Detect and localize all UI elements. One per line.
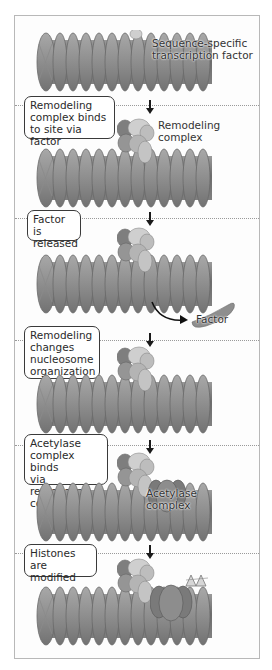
label-acetylase-complex: Acetylase complex [146,488,197,511]
acetyl-group-icon [184,572,212,588]
step-label-remodeling-binds: Remodeling complex binds to site via fac… [24,96,115,139]
step-label-acetylase-binds: Acetylase complex binds via remodeling c… [24,434,108,485]
transcription-factor-shape [130,30,142,39]
down-arrow-icon [145,212,155,226]
label-remodeling-complex: Remodeling complex [158,120,220,143]
label-transcription-factor: Sequence-specific transcription factor [152,38,253,61]
remodeling-complex-shape [117,226,159,278]
remodeling-complex-shape [117,117,159,169]
step-label-factor-released: Factor is released [27,210,81,241]
acetylase-complex-shape [150,582,194,624]
label-factor: Factor [196,314,228,326]
remodeling-complex-shape [117,345,159,397]
down-arrow-icon [145,100,155,114]
step-label-histones-modified: Histones are modified [24,544,97,577]
